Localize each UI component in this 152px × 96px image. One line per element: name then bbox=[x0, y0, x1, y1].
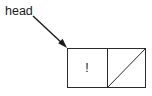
diagram-canvas: head ! bbox=[0, 0, 152, 96]
head-pointer-arrow bbox=[33, 16, 67, 48]
node-data-value: ! bbox=[85, 61, 88, 75]
node-outline bbox=[68, 49, 146, 88]
list-node: ! bbox=[68, 49, 146, 88]
arrow-shaft-line bbox=[33, 16, 64, 45]
linked-list-diagram: head ! bbox=[0, 0, 152, 96]
head-pointer-label: head bbox=[5, 4, 33, 18]
